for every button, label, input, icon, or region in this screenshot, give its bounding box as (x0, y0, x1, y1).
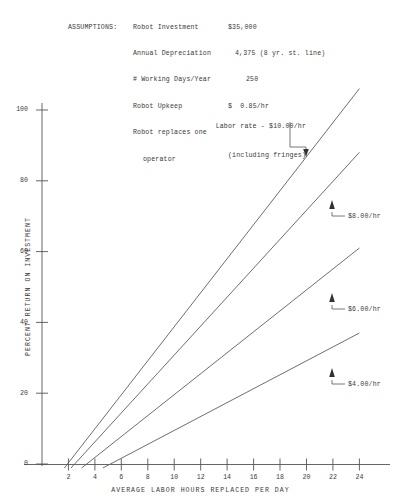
y-axis-title: PERCENT RETURN ON INVESTMENT (25, 187, 32, 387)
callout-leader-8 (332, 212, 345, 216)
callout-leader-4 (332, 380, 345, 384)
series-line-4 (103, 333, 360, 468)
x-tick-label-22: 22 (323, 474, 343, 481)
callout-label-rate-6: $6.00/hr (348, 305, 381, 315)
callout-label-labor-rate: Labor rate - $10.00/hr (including fringe… (188, 103, 306, 179)
x-tick-label-10: 10 (164, 474, 184, 481)
x-tick-label-24: 24 (349, 474, 369, 481)
callout-leader-6 (332, 305, 345, 309)
series-line-8 (71, 152, 359, 468)
callout-labor-rate-line2: (including fringes) (188, 151, 306, 161)
callout-arrow-4 (329, 368, 335, 377)
plot-area (0, 0, 401, 504)
x-tick-label-18: 18 (270, 474, 290, 481)
x-tick-label-8: 8 (138, 474, 158, 481)
x-tick-label-6: 6 (111, 474, 131, 481)
y-tick-label-100: 100 (2, 106, 28, 113)
x-tick-label-2: 2 (58, 474, 78, 481)
callout-label-rate-4: $4.00/hr (348, 380, 381, 390)
callout-label-rate-8: $8.00/hr (348, 212, 381, 222)
x-tick-label-16: 16 (244, 474, 264, 481)
x-tick-label-20: 20 (297, 474, 317, 481)
callout-labor-rate-line1: Labor rate - $10.00/hr (188, 122, 306, 132)
y-tick-label-20: 20 (2, 390, 28, 397)
y-tick-label-0: 0 (2, 460, 28, 467)
x-tick-label-4: 4 (85, 474, 105, 481)
callout-arrow-6 (329, 293, 335, 302)
y-tick-label-80: 80 (2, 177, 28, 184)
callout-arrow-8 (329, 200, 335, 209)
x-tick-label-12: 12 (191, 474, 211, 481)
chart-figure: ASSUMPTIONS: Robot Investment $35,000 An… (0, 0, 401, 504)
x-tick-label-14: 14 (217, 474, 237, 481)
x-axis-title: AVERAGE LABOR HOURS REPLACED PER DAY (0, 487, 401, 494)
series-line-6 (82, 248, 360, 468)
